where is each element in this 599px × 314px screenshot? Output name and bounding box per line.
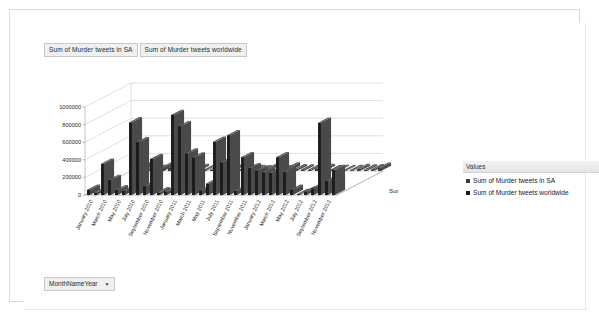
x-axis-tick-label: January 2010 bbox=[74, 199, 94, 231]
chart-bar[interactable] bbox=[171, 115, 174, 195]
chart-bar[interactable] bbox=[290, 190, 293, 195]
legend-title: Values bbox=[463, 161, 599, 173]
chart-bar[interactable] bbox=[283, 172, 286, 195]
legend-swatch-icon-worldwide bbox=[466, 191, 470, 195]
chart-bar[interactable] bbox=[357, 169, 360, 171]
chart-bar[interactable] bbox=[164, 191, 167, 195]
legend-swatch-icon-sa bbox=[466, 179, 470, 183]
y-axis-tick-label: 800000 bbox=[62, 122, 81, 128]
y-axis-tick-label: 200000 bbox=[62, 174, 81, 180]
chart-bar[interactable] bbox=[311, 188, 314, 195]
chart-bar[interactable] bbox=[115, 190, 118, 195]
x-axis-tick-label: May 2011 bbox=[190, 199, 206, 223]
field-button-bar: Sum of Murder tweets in SA Sum of Murder… bbox=[44, 43, 247, 57]
report-outer-frame: Sum of Murder tweets in SA Sum of Murder… bbox=[9, 9, 580, 302]
bar-side-face bbox=[153, 154, 163, 195]
chart-bar[interactable] bbox=[241, 157, 244, 195]
chart-bar[interactable] bbox=[87, 190, 90, 195]
chart-bar[interactable] bbox=[269, 173, 272, 195]
legend-item-worldwide[interactable]: Sum of Murder tweets worldwide bbox=[463, 185, 599, 197]
x-axis-tick-label: July 2011 bbox=[205, 199, 220, 222]
chart-bar[interactable] bbox=[378, 168, 381, 171]
chart-bar[interactable] bbox=[122, 191, 125, 195]
chart-bar[interactable] bbox=[206, 184, 209, 195]
legend: Values Sum of Murder tweets in SA Sum of… bbox=[463, 161, 599, 197]
chevron-down-icon: ▼ bbox=[105, 282, 110, 287]
chart-bar[interactable] bbox=[301, 169, 304, 171]
chart-bar[interactable] bbox=[143, 186, 146, 195]
chart-bar[interactable] bbox=[308, 170, 311, 171]
chart-bar[interactable] bbox=[371, 169, 374, 171]
bar-side-face bbox=[230, 130, 240, 195]
chart-bar[interactable] bbox=[227, 135, 230, 195]
chart-bar[interactable] bbox=[108, 180, 111, 195]
legend-item-label-sa: Sum of Murder tweets in SA bbox=[473, 176, 555, 185]
chart-bar[interactable] bbox=[318, 123, 321, 195]
field-button-sa[interactable]: Sum of Murder tweets in SA bbox=[44, 43, 138, 57]
field-button-worldwide[interactable]: Sum of Murder tweets worldwide bbox=[140, 43, 247, 57]
chart-bar[interactable] bbox=[150, 159, 153, 195]
chart-bar[interactable] bbox=[192, 158, 195, 195]
y-axis-tick-label: 400000 bbox=[62, 157, 81, 163]
chart-bar[interactable] bbox=[213, 142, 216, 195]
chart-bar[interactable] bbox=[325, 181, 328, 195]
chart-bar[interactable] bbox=[136, 142, 139, 195]
chart-bar[interactable] bbox=[199, 191, 202, 195]
chart-bar[interactable] bbox=[220, 162, 223, 195]
chart-bar[interactable] bbox=[255, 171, 258, 195]
chart-bar[interactable] bbox=[185, 154, 188, 195]
chart-bar[interactable] bbox=[168, 168, 171, 171]
chart-bar[interactable] bbox=[178, 126, 181, 195]
chart-bar[interactable] bbox=[157, 192, 160, 195]
chart-bar[interactable] bbox=[94, 192, 97, 195]
y-axis-tick-label: 600000 bbox=[62, 139, 81, 145]
chart-bar[interactable] bbox=[129, 122, 132, 195]
chart-bar[interactable] bbox=[304, 191, 307, 195]
chart-bar[interactable] bbox=[315, 168, 318, 171]
chart-bar[interactable] bbox=[248, 168, 251, 195]
x-axis-tick-label: July 2010 bbox=[120, 199, 136, 222]
x-axis-tick-label: July 2012 bbox=[288, 199, 304, 222]
y-axis-tick-label: 1000000 bbox=[59, 104, 81, 110]
chart-bar[interactable] bbox=[350, 170, 353, 171]
chart-bar[interactable] bbox=[210, 170, 213, 171]
chart-plot-area[interactable]: 02000004000006000008000001000000January … bbox=[38, 75, 398, 305]
chart-bar[interactable] bbox=[332, 170, 335, 195]
chart-bar[interactable] bbox=[276, 157, 279, 195]
chart-bar[interactable] bbox=[234, 191, 237, 195]
depth-axis-label: Sum of Murder tweets in SA bbox=[389, 187, 398, 194]
filter-button-monthnameyear[interactable]: MonthNameYear ▼ bbox=[44, 277, 115, 291]
report-surface: Sum of Murder tweets in SA Sum of Murder… bbox=[24, 23, 586, 310]
legend-item-sa[interactable]: Sum of Murder tweets in SA bbox=[463, 173, 599, 185]
column-chart-3d[interactable]: 02000004000006000008000001000000January … bbox=[38, 75, 398, 305]
chart-bar[interactable] bbox=[101, 164, 104, 195]
chart-bar[interactable] bbox=[297, 194, 300, 195]
filter-button-label: MonthNameYear bbox=[49, 280, 98, 288]
chart-bar[interactable] bbox=[364, 170, 367, 171]
y-axis-tick-label: 0 bbox=[78, 192, 81, 198]
legend-item-label-worldwide: Sum of Murder tweets worldwide bbox=[473, 188, 569, 197]
bar-side-face bbox=[335, 165, 345, 195]
chart-bar[interactable] bbox=[262, 173, 265, 195]
